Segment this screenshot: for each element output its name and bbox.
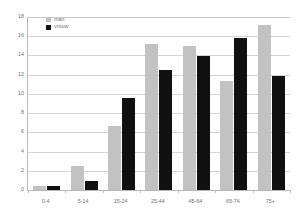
legend-item-man[interactable]: man <box>46 17 68 22</box>
x-axis-tick-label: 5-14 <box>78 199 89 204</box>
bar-man-15-24 <box>108 126 121 190</box>
chart-legend: manvrouw <box>46 17 68 30</box>
y-axis-tick-label: 12 <box>18 72 24 77</box>
bar-vrouw-5-14 <box>85 181 98 190</box>
bar-series-layer <box>28 17 290 190</box>
x-axis-tick-label: 15-24 <box>114 199 128 204</box>
legend-swatch-icon <box>46 25 51 30</box>
x-axis-tick-cell: 75+ <box>252 193 289 211</box>
x-axis-tick-label: 65-74 <box>226 199 240 204</box>
legend-item-vrouw[interactable]: vrouw <box>46 24 68 29</box>
legend-swatch-icon <box>46 17 51 22</box>
bar-vrouw-65-74 <box>234 38 247 190</box>
bar-vrouw-45-64 <box>197 56 210 190</box>
y-axis-tick-label: 2 <box>21 168 24 173</box>
bar-group <box>28 17 65 190</box>
x-axis-tick-cell: 65-74 <box>214 193 251 211</box>
x-axis-tick-label: 0-4 <box>42 199 50 204</box>
legend-label: vrouw <box>54 24 68 29</box>
bar-group <box>65 17 102 190</box>
x-axis-tick-label: 25-44 <box>151 199 165 204</box>
bar-group <box>253 17 290 190</box>
bar-group <box>178 17 215 190</box>
bar-man-0-4 <box>33 186 46 190</box>
x-axis-tick-cell: 0-4 <box>27 193 64 211</box>
bar-chart: 024681012141618 0-45-1415-2425-4445-6465… <box>0 0 296 220</box>
bar-group <box>215 17 252 190</box>
x-axis-tickmark <box>290 190 291 193</box>
x-axis-tick-labels: 0-45-1415-2425-4445-6465-7475+ <box>27 193 289 211</box>
x-axis-tick-cell: 25-44 <box>139 193 176 211</box>
bar-man-75+ <box>258 25 271 190</box>
y-axis-tick-label: 14 <box>18 53 24 58</box>
legend-label: man <box>54 17 65 22</box>
y-axis-tick-label: 10 <box>18 91 24 96</box>
x-axis-tick-cell: 15-24 <box>102 193 139 211</box>
x-axis-tick-label: 75+ <box>266 199 275 204</box>
y-axis-tick-label: 0 <box>21 187 24 192</box>
bar-vrouw-15-24 <box>122 98 135 190</box>
y-axis-tick-label: 8 <box>21 110 24 115</box>
bar-vrouw-0-4 <box>47 186 60 190</box>
x-axis-tick-cell: 5-14 <box>64 193 101 211</box>
y-axis-tick-label: 18 <box>18 14 24 19</box>
bar-vrouw-25-44 <box>159 70 172 190</box>
y-axis-tick-label: 6 <box>21 130 24 135</box>
x-axis-tick-cell: 45-64 <box>177 193 214 211</box>
bar-man-5-14 <box>71 166 84 190</box>
plot-area: 024681012141618 <box>27 17 290 191</box>
bar-group <box>103 17 140 190</box>
bar-vrouw-75+ <box>272 76 285 190</box>
bar-group <box>140 17 177 190</box>
y-axis-tick-label: 4 <box>21 149 24 154</box>
bar-man-25-44 <box>145 44 158 190</box>
bar-man-45-64 <box>183 46 196 190</box>
y-axis-tick-label: 16 <box>18 34 24 39</box>
bar-man-65-74 <box>220 81 233 190</box>
x-axis-tick-label: 45-64 <box>189 199 203 204</box>
